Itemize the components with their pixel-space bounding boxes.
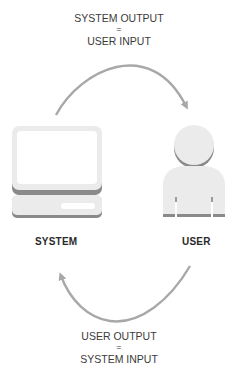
system-label: SYSTEM <box>35 236 77 247</box>
arrow-user-to-system <box>61 266 190 321</box>
person-icon <box>163 125 225 217</box>
computer-icon <box>12 126 102 218</box>
bottom-caption: USER OUTPUT = SYSTEM INPUT <box>0 330 238 365</box>
arrow-system-to-user <box>56 66 186 115</box>
bottom-caption-line3: SYSTEM INPUT <box>0 353 238 365</box>
bottom-caption-line1: USER OUTPUT <box>0 330 238 342</box>
diagram-canvas <box>0 0 238 379</box>
bottom-caption-equals: = <box>0 342 238 353</box>
user-label: USER <box>182 236 211 247</box>
